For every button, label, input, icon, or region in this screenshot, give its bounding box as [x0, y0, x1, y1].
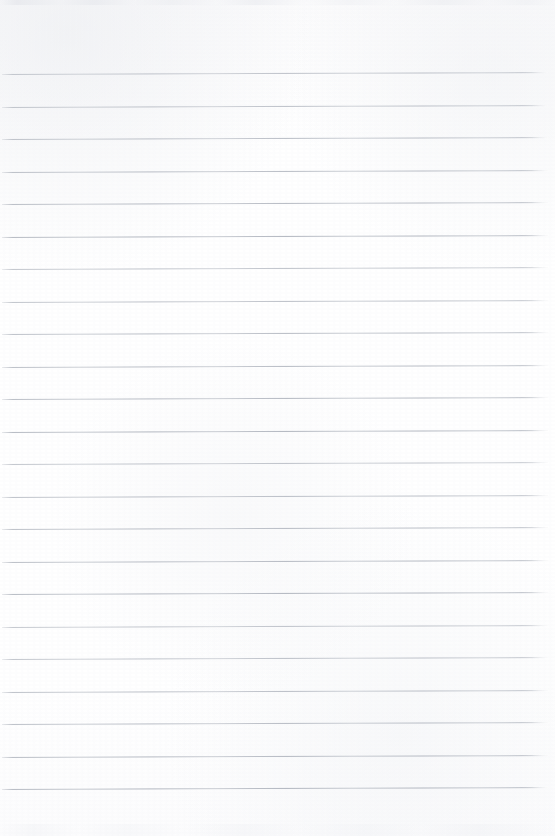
ruled-line [2, 234, 548, 237]
ruled-line [2, 364, 548, 367]
ruled-line [2, 657, 548, 660]
ruled-line [2, 169, 548, 172]
ruled-line [2, 299, 548, 302]
ruled-line [2, 559, 548, 562]
ruled-lines-layer [0, 0, 555, 836]
ruled-line [2, 527, 548, 530]
ruled-line [2, 754, 548, 757]
ruled-line [2, 592, 548, 595]
ruled-line [2, 787, 548, 790]
ruled-line [2, 494, 548, 497]
ruled-line [2, 104, 548, 107]
ruled-line [2, 72, 548, 75]
ruled-line [2, 462, 548, 465]
ruled-line [2, 722, 548, 725]
ruled-line [2, 429, 548, 432]
ruled-line [2, 624, 548, 627]
ruled-line [2, 332, 548, 335]
lined-paper-page [0, 0, 555, 836]
ruled-line [2, 137, 548, 140]
ruled-line [2, 689, 548, 692]
ruled-line [2, 202, 548, 205]
ruled-line [2, 397, 548, 400]
ruled-line [2, 267, 548, 270]
